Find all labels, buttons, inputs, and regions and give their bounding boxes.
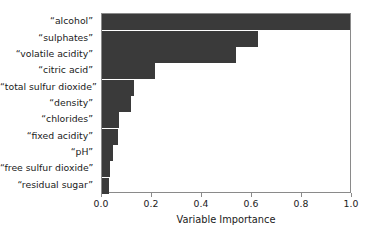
x-axis-tick-label: 0.2 — [131, 199, 171, 208]
bar-row — [102, 47, 352, 63]
y-axis-tick-label: “pH” — [0, 147, 97, 156]
bar — [102, 63, 155, 79]
y-axis-tick-label: “total sulfur dioxide” — [0, 82, 97, 91]
bar — [102, 145, 113, 161]
y-axis-tick-label: “volatile acidity” — [0, 49, 97, 58]
y-axis-tick-label: “free sulfur dioxide” — [0, 163, 97, 172]
x-axis-tick-mark — [101, 193, 102, 197]
bar-row — [102, 112, 352, 128]
bar — [102, 31, 258, 47]
y-axis-tick-label: “residual sugar” — [0, 180, 97, 189]
y-axis-tick-label: “density” — [0, 98, 97, 107]
bar — [102, 96, 131, 112]
bar-row — [102, 161, 352, 177]
y-axis-tick-label: “citric acid” — [0, 65, 97, 74]
x-axis-tick-label: 0.6 — [231, 199, 271, 208]
plot-area — [101, 13, 351, 193]
y-axis-tick-label: “sulphates” — [0, 33, 97, 42]
y-axis-tick-label: “fixed acidity” — [0, 131, 97, 140]
bar-row — [102, 145, 352, 161]
x-axis-tick-mark — [301, 193, 302, 197]
bar-row — [102, 96, 352, 112]
bar — [102, 129, 118, 145]
bar-row — [102, 14, 352, 30]
bar-row — [102, 178, 352, 194]
bar — [102, 161, 110, 177]
x-axis-tick-label: 0.4 — [181, 199, 221, 208]
bar — [102, 80, 134, 96]
variable-importance-chart: “alcohol”“sulphates”“volatile acidity”“c… — [0, 0, 368, 243]
x-axis-tick-label: 1.0 — [331, 199, 368, 208]
x-axis-tick-label: 0.8 — [281, 199, 321, 208]
bar — [102, 178, 109, 194]
bar — [102, 14, 350, 30]
bar-row — [102, 129, 352, 145]
x-axis-title: Variable Importance — [101, 215, 351, 225]
x-axis-tick-mark — [201, 193, 202, 197]
bar — [102, 47, 236, 63]
bar-row — [102, 63, 352, 79]
x-axis-tick-mark — [151, 193, 152, 197]
x-axis-tick-mark — [251, 193, 252, 197]
x-axis-tick-mark — [351, 193, 352, 197]
y-axis-tick-label: “alcohol” — [0, 16, 97, 25]
x-axis-tick-label: 0.0 — [81, 199, 121, 208]
y-axis-tick-label: “chlorides” — [0, 114, 97, 123]
bar-row — [102, 80, 352, 96]
bar — [102, 112, 119, 128]
bar-row — [102, 31, 352, 47]
